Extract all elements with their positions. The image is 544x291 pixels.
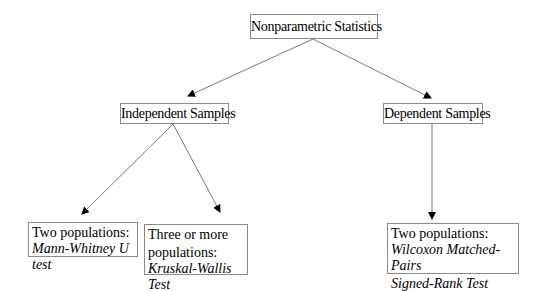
edge-independent-mannwhitney [82,124,173,214]
node-independent-samples: Independent Samples [120,103,229,124]
node-nonparametric-statistics: Nonparametric Statistics [250,14,378,39]
edge-root-independent [188,39,313,96]
leaf-heading: Two populations: [32,225,133,241]
leaf-test-line1: Wilcoxon Matched-Pairs [391,242,514,274]
node-label: Independent Samples [121,106,235,121]
edge-independent-kruskal [173,124,220,212]
node-dependent-samples: Dependent Samples [383,103,483,124]
node-label: Nonparametric Statistics [251,19,382,34]
node-mann-whitney: Two populations: Mann-Whitney U test [28,222,138,257]
edge-root-dependent [313,39,431,98]
leaf-test: Kruskal-Wallis Test [148,261,243,291]
leaf-heading-line1: Three or more [148,227,243,243]
leaf-heading: Two populations: [391,226,514,242]
node-kruskal-wallis: Three or more populations: Kruskal-Walli… [144,224,248,275]
leaf-test-line2: Signed-Rank Test [391,276,514,291]
node-label: Dependent Samples [384,106,490,121]
leaf-heading-line2: populations: [148,245,243,261]
node-wilcoxon: Two populations: Wilcoxon Matched-Pairs … [387,223,519,274]
leaf-test: Mann-Whitney U test [32,241,133,273]
